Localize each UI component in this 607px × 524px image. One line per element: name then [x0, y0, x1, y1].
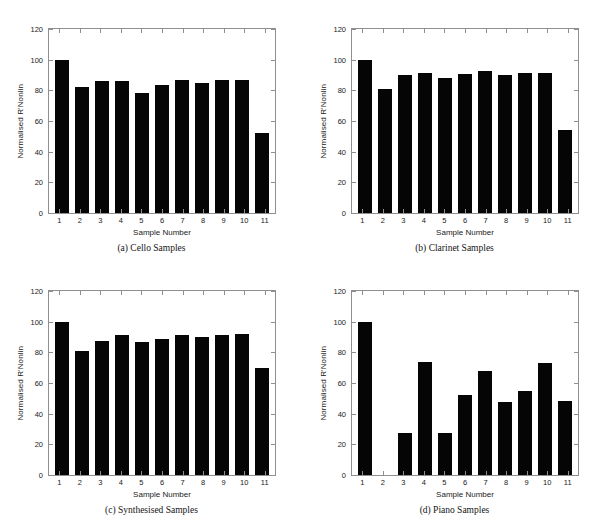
x-tick-label: 7 [180, 478, 184, 487]
y-tick-mark [574, 90, 578, 91]
bar [175, 80, 189, 213]
bar-slot [555, 291, 575, 475]
x-tick-mark [568, 291, 569, 295]
bar-slot [132, 29, 152, 213]
x-tick-label: 5 [139, 478, 143, 487]
y-tick-mark [352, 383, 356, 384]
x-tick-label: 5 [442, 478, 446, 487]
bar-slot [375, 29, 395, 213]
x-tick-label: 4 [119, 216, 123, 225]
x-tick-label: 7 [483, 478, 487, 487]
x-tick-label: 4 [422, 216, 426, 225]
y-tick-mark [49, 383, 53, 384]
bar-slot [455, 29, 475, 213]
y-tick-mark [352, 291, 356, 292]
bar [498, 75, 512, 213]
y-tick-mark [49, 182, 53, 183]
bar [518, 391, 532, 475]
bar [538, 73, 552, 213]
x-tick-label: 10 [240, 216, 248, 225]
y-tick-label: 0 [342, 209, 346, 218]
x-tick-mark [547, 471, 548, 475]
y-tick-label: 20 [338, 440, 346, 449]
x-tick-mark [527, 209, 528, 213]
bar [195, 83, 209, 213]
bar [438, 433, 452, 475]
x-axis-title-d: Sample Number [351, 490, 579, 499]
y-tick-label: 20 [338, 178, 346, 187]
y-tick-mark [49, 475, 53, 476]
x-tick-mark [80, 291, 81, 295]
y-tick-mark [574, 121, 578, 122]
y-tick-mark [574, 322, 578, 323]
bar [458, 74, 472, 213]
x-tick-mark [59, 29, 60, 33]
x-tick-mark [383, 291, 384, 295]
bar [458, 395, 472, 476]
plot-area-d: 020406080100120 1234567891011 [351, 290, 579, 476]
y-tick-mark [271, 414, 275, 415]
caption-b: (b) Clarinet Samples [303, 243, 606, 253]
bar-slot [112, 291, 132, 475]
y-tick-mark [352, 322, 356, 323]
bar-slot [535, 291, 555, 475]
x-tick-mark [527, 29, 528, 33]
x-tick-mark [383, 471, 384, 475]
y-tick-label: 60 [35, 379, 43, 388]
x-tick-mark [162, 29, 163, 33]
x-tick-label: 10 [543, 216, 551, 225]
bars-container-c [49, 291, 275, 475]
bars-container-a [49, 29, 275, 213]
y-tick-mark [352, 213, 356, 214]
plot-area-b: 020406080100120 1234567891011 [351, 28, 579, 214]
bar-slot [252, 29, 272, 213]
x-tick-mark [265, 291, 266, 295]
x-tick-mark [465, 471, 466, 475]
bar-slot [475, 291, 495, 475]
x-tick-mark [162, 209, 163, 213]
bar-series-d [352, 291, 578, 475]
bar-slot [52, 29, 72, 213]
y-axis-title-c-text: Normalised R'Nonlin [16, 346, 25, 421]
x-tick-mark [527, 471, 528, 475]
y-axis-title-c: Normalised R'Nonlin [14, 290, 26, 476]
x-tick-label: 3 [401, 478, 405, 487]
y-tick-mark [574, 291, 578, 292]
x-tick-mark [383, 209, 384, 213]
x-tick-mark [224, 209, 225, 213]
bar [255, 368, 269, 475]
bar [195, 337, 209, 475]
x-tick-mark [80, 471, 81, 475]
bar [55, 322, 69, 475]
bar [358, 60, 372, 213]
bar [115, 335, 129, 475]
y-tick-mark [574, 414, 578, 415]
x-tick-label: 9 [525, 216, 529, 225]
bar [235, 80, 249, 213]
x-tick-mark [203, 209, 204, 213]
y-tick-mark [574, 60, 578, 61]
bar [558, 401, 572, 475]
subplot-c: Normalised R'Nonlin 020406080100120 1234… [0, 262, 303, 524]
y-tick-mark [352, 121, 356, 122]
bar-slot [72, 29, 92, 213]
bar-slot [252, 291, 272, 475]
bar [498, 402, 512, 475]
y-tick-mark [271, 444, 275, 445]
y-tick-label: 40 [35, 147, 43, 156]
y-tick-mark [271, 182, 275, 183]
x-tick-mark [244, 209, 245, 213]
x-tick-mark [444, 471, 445, 475]
x-tick-mark [59, 291, 60, 295]
x-tick-mark [265, 209, 266, 213]
bar-slot [212, 29, 232, 213]
y-tick-mark [49, 322, 53, 323]
x-tick-mark [121, 209, 122, 213]
x-tick-mark [59, 209, 60, 213]
y-axis-title-d: Normalised R'Nonlin [317, 290, 329, 476]
x-tick-mark [362, 29, 363, 33]
bar [398, 433, 412, 475]
y-tick-mark [49, 291, 53, 292]
y-tick-label: 80 [338, 86, 346, 95]
x-tick-label: 1 [57, 478, 61, 487]
